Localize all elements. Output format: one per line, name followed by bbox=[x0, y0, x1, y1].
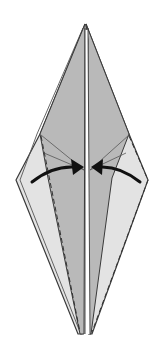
origami-diagram bbox=[0, 0, 163, 356]
